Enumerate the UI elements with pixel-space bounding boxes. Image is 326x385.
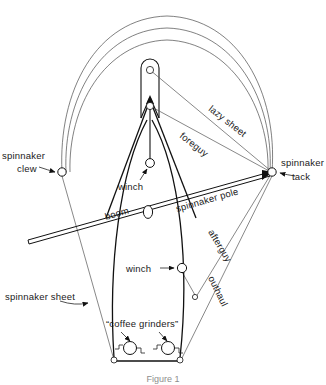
hull-port-corner-node [111,357,117,363]
label-afterguy: afterguy [206,227,234,264]
coffee-grinder-left [115,342,145,355]
figure-container: spinnaker clew spinnaker tack lazy sheet… [0,0,326,385]
grinder-crank-right-starboard [175,348,183,353]
label-coffee-grinders: “coffee grinders” [106,318,178,329]
winch-upper-leader-arrow [140,169,147,180]
spinnaker-pole-spar [28,170,273,244]
grinder-left-leader-arrow [121,332,130,341]
spinnaker-clew-node [58,168,66,176]
label-spinnaker-clew-line1: spinnaker [2,150,45,161]
lazy-sheet-line [150,70,271,171]
grinder-drum-right [162,342,175,355]
coffee-grinder-right [153,342,183,355]
sail-arc-inner [70,40,268,172]
leader-arrows [39,167,295,341]
hull-starboard-corner-node [177,357,183,363]
label-foreguy: foreguy [178,130,211,159]
grinder-crank-right-port [153,345,161,349]
mast-upper-ring [146,66,153,73]
forestay-port [106,100,150,218]
figure-caption: Figure 1 [146,374,179,384]
label-lazy-sheet: lazy sheet [207,103,249,139]
pole-outboard-cap [28,240,29,244]
grinder-crank-left-starboard [137,348,145,353]
lower-block-node [192,294,197,299]
sail-arc-outer [62,16,273,172]
label-spinnaker-tack-line2: tack [292,171,310,182]
label-winch-lower: winch [125,263,151,274]
spinnaker-rigging-diagram: spinnaker clew spinnaker tack lazy sheet… [0,0,326,385]
spinnaker-sail-arcs [62,16,273,172]
spinnaker-tack-node [268,168,276,176]
mast-lower-ring [146,102,153,109]
label-spinnaker-sheet: spinnaker sheet [5,291,75,302]
sail-arc-middle [66,28,270,172]
grinder-right-leader-arrow [159,332,167,341]
grinder-drum-left [124,342,137,355]
label-outhaul: outhaul [206,274,230,308]
spinnaker-sheet-line [62,176,114,360]
coffee-grinders [115,342,183,355]
label-spinnaker-clew-line2: clew [17,163,37,174]
winch-upper-node [146,159,155,168]
mast-collar [143,206,152,219]
grinder-crank-left-port [115,345,123,349]
rigging-lines [62,70,272,360]
label-winch-upper: winch [117,181,143,192]
foreguy-line [150,106,271,172]
clew-leader-arrow [39,167,55,172]
label-spinnaker-tack-line1: spinnaker [281,157,324,168]
winch-lower-node [177,263,186,272]
